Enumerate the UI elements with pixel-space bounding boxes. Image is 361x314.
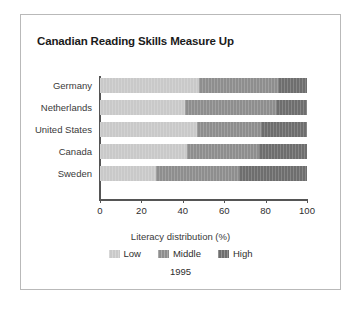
y-axis-label-canada: Canada	[0, 146, 92, 157]
x-axis-tick-label: 100	[299, 205, 315, 216]
bar-segment-high	[278, 78, 307, 93]
bar-segment-low	[100, 166, 156, 181]
bar-segment-middle	[185, 100, 276, 115]
x-axis-tick-mark	[141, 199, 142, 203]
x-axis-tick-label: 80	[260, 205, 271, 216]
bar-segment-low	[100, 78, 199, 93]
bar-segment-middle	[156, 166, 239, 181]
y-axis-label-sweden: Sweden	[0, 168, 92, 179]
bar-segment-low	[100, 144, 187, 159]
bar-segment-middle	[197, 122, 261, 137]
x-axis-line	[99, 199, 308, 201]
bar-segment-middle	[199, 78, 278, 93]
bar-segment-high	[259, 144, 307, 159]
bar-row	[100, 144, 307, 159]
bar-segment-high	[261, 122, 307, 137]
plot-area	[100, 78, 307, 198]
legend-title: Literacy distribution (%)	[0, 231, 361, 242]
x-axis-tick-mark	[307, 199, 308, 203]
x-axis-tick-label: 20	[136, 205, 147, 216]
y-axis-label-united-states: United States	[0, 124, 92, 135]
chart-title: Canadian Reading Skills Measure Up	[37, 35, 234, 47]
bar-segment-low	[100, 100, 185, 115]
bar-segment-middle	[187, 144, 259, 159]
bar-row	[100, 100, 307, 115]
x-axis-tick-mark	[266, 199, 267, 203]
bar-segment-high	[239, 166, 307, 181]
legend-item-middle: Middle	[158, 248, 201, 259]
y-axis-label-germany: Germany	[0, 80, 92, 91]
bar-row	[100, 122, 307, 137]
legend-label-low: Low	[124, 248, 141, 259]
x-axis-tick-label: 40	[178, 205, 189, 216]
bar-row	[100, 78, 307, 93]
x-axis-tick-label: 0	[97, 205, 102, 216]
bar-row	[100, 166, 307, 181]
legend-item-high: High	[218, 248, 253, 259]
x-axis-tick-mark	[100, 199, 101, 203]
legend-label-middle: Middle	[173, 248, 201, 259]
legend-item-low: Low	[109, 248, 141, 259]
chart-figure: Canadian Reading Skills Measure Up Germa…	[0, 0, 361, 314]
legend-label-high: High	[233, 248, 253, 259]
legend: LowMiddleHigh	[0, 248, 361, 259]
legend-swatch-high	[218, 250, 229, 258]
legend-swatch-low	[109, 250, 120, 258]
bar-segment-low	[100, 122, 197, 137]
y-axis-label-netherlands: Netherlands	[0, 102, 92, 113]
legend-swatch-middle	[158, 250, 169, 258]
x-axis-tick-mark	[183, 199, 184, 203]
x-axis-tick-mark	[224, 199, 225, 203]
legend-year: 1995	[0, 266, 361, 277]
x-axis-tick-label: 60	[219, 205, 230, 216]
bar-segment-high	[276, 100, 307, 115]
